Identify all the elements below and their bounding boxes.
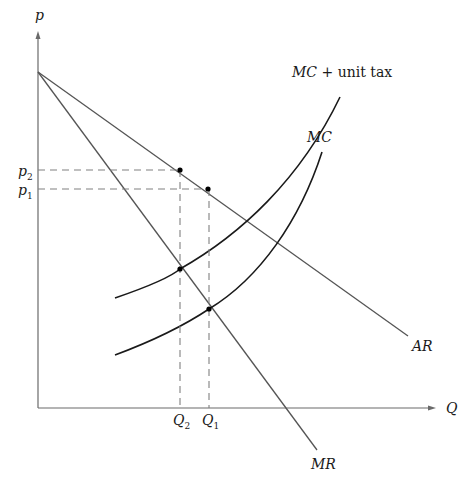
- ar-line: [38, 72, 408, 336]
- point-p1-on-ar: [205, 186, 210, 191]
- mc-plus-tax-curve: [115, 97, 340, 298]
- mc-curve: [115, 152, 322, 355]
- monopoly-tax-diagram: p Q AR MR MC + unit tax MC p2 p1 Q2 Q1: [0, 0, 474, 483]
- mc-plus-tax-label: MC + unit tax: [291, 64, 392, 80]
- point-mr-mc: [206, 306, 211, 311]
- q1-label: Q1: [202, 412, 219, 431]
- point-mr-mc-tax: [177, 266, 182, 271]
- mr-line: [38, 72, 317, 450]
- mc-label: MC: [306, 129, 332, 145]
- y-axis-label: p: [35, 7, 44, 23]
- q2-label: Q2: [173, 412, 190, 431]
- point-p2-on-ar: [177, 167, 182, 172]
- ar-label: AR: [410, 338, 433, 354]
- mr-label: MR: [310, 456, 336, 472]
- p2-label: p2: [18, 163, 33, 182]
- p1-label: p1: [18, 182, 33, 201]
- x-axis-label: Q: [446, 400, 458, 416]
